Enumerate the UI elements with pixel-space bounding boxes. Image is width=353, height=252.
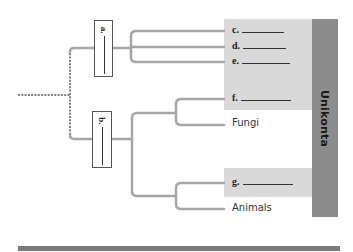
branch-g-animals (176, 183, 224, 209)
answer-box-a[interactable]: a. (94, 20, 113, 77)
branch-f-fungi (176, 99, 224, 125)
branch-b-split (132, 113, 176, 196)
tip-fungi: Fungi (232, 117, 259, 128)
label-a: a. (99, 27, 109, 34)
tip-c[interactable]: c. (232, 24, 284, 35)
branch-root-a (70, 48, 94, 52)
label-b: b. (97, 117, 107, 124)
tree-branches (0, 0, 353, 252)
tip-animals: Animals (232, 202, 272, 213)
tip-f[interactable]: f. (232, 92, 291, 103)
tip-e[interactable]: e. (232, 55, 290, 66)
answer-box-b[interactable]: b. (92, 111, 112, 168)
branch-root-b (70, 134, 92, 139)
answer-line-b (102, 127, 103, 165)
answer-line-a (104, 36, 105, 74)
bottom-rule (18, 246, 340, 251)
tip-d[interactable]: d. (232, 40, 286, 51)
tip-g[interactable]: g. (232, 176, 293, 187)
